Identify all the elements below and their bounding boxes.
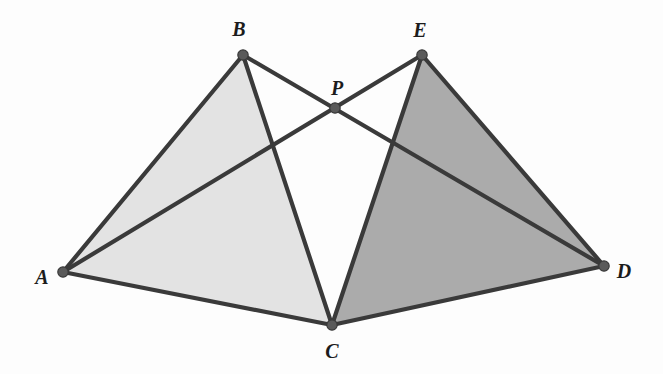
vertex-label-c: C — [325, 341, 338, 361]
vertex-label-b: B — [232, 19, 245, 39]
vertex-label-e: E — [413, 20, 426, 40]
vertex-dot-p — [330, 103, 340, 113]
vertex-dot-c — [327, 320, 337, 330]
geometry-canvas — [0, 0, 663, 374]
vertex-dot-b — [238, 50, 248, 60]
vertex-label-d: D — [617, 261, 631, 281]
vertex-dot-e — [417, 50, 427, 60]
vertex-label-p: P — [331, 78, 343, 98]
vertex-label-a: A — [35, 267, 48, 287]
vertex-dot-d — [599, 261, 609, 271]
vertex-dot-a — [58, 267, 68, 277]
geometry-figure: ABCDEP — [0, 0, 663, 374]
triangle-ced — [332, 55, 604, 325]
